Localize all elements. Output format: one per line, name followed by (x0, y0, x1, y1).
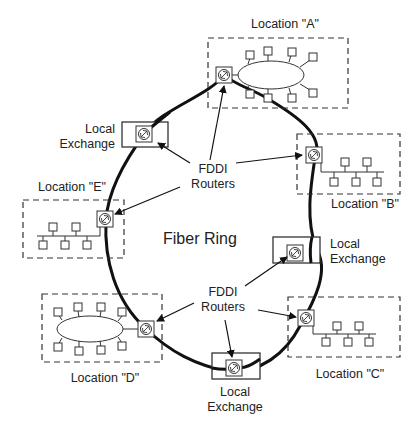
location-d-label: Location "D" (50, 371, 160, 386)
router-exchange-2 (287, 245, 303, 261)
location-b-label: Location "B" (315, 197, 415, 212)
router-d (138, 321, 154, 337)
fddi-routers-label-lower: FDDI Routers (193, 285, 253, 315)
router-a (216, 67, 232, 83)
location-a-label: Location "A" (225, 17, 345, 32)
location-c-box (288, 297, 400, 357)
exchange-label-1: Local Exchange (50, 122, 115, 152)
exchange-label-2: Local Exchange (330, 237, 386, 267)
fddi-routers-label-upper: FDDI Routers (183, 162, 243, 192)
router-b (306, 147, 322, 163)
location-e-label: Location "E" (22, 180, 122, 195)
router-exchange-1 (136, 126, 152, 142)
router-c (298, 310, 314, 326)
fiber-ring-label: Fiber Ring (163, 231, 237, 246)
router-exchange-3 (226, 360, 242, 376)
location-c-label: Location "C" (295, 367, 405, 382)
exchange-label-3: Local Exchange (200, 385, 270, 415)
router-e (97, 211, 113, 227)
